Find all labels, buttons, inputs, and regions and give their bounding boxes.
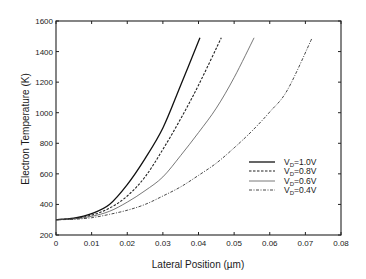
legend: VD=1.0VVD=0.8VVD=0.6VVD=0.4V xyxy=(249,157,317,196)
y-tick-label: 1600 xyxy=(35,17,53,26)
plot-frame xyxy=(56,21,341,235)
y-tick-label: 600 xyxy=(40,170,54,179)
y-tick-label: 400 xyxy=(40,200,54,209)
y-axis-ticks: 2004006008001000120014001600 xyxy=(35,17,341,240)
y-tick-label: 200 xyxy=(40,231,54,240)
x-axis-title: Lateral Position (µm) xyxy=(152,259,244,270)
x-tick-label: 0 xyxy=(54,239,59,248)
x-tick-label: 0.07 xyxy=(298,239,314,248)
y-tick-label: 800 xyxy=(40,139,54,148)
electron-temperature-chart: 00.010.020.030.040.050.060.070.08 200400… xyxy=(0,0,366,279)
x-tick-label: 0.04 xyxy=(191,239,207,248)
y-tick-label: 1400 xyxy=(35,48,53,57)
x-tick-label: 0.03 xyxy=(155,239,171,248)
x-tick-label: 0.01 xyxy=(84,239,100,248)
x-axis-ticks: 00.010.020.030.040.050.060.070.08 xyxy=(54,21,350,248)
plot-border xyxy=(56,21,341,235)
x-tick-label: 0.05 xyxy=(226,239,242,248)
y-axis-title: Electron Temperature (K) xyxy=(20,73,31,185)
x-tick-label: 0.08 xyxy=(333,239,349,248)
series-layer xyxy=(56,38,312,220)
legend-label-value: =0.8V xyxy=(294,166,317,176)
series-line-solid xyxy=(56,38,200,220)
series-line-dashdot xyxy=(56,38,312,220)
series-line-dotted xyxy=(56,38,254,220)
y-tick-label: 1200 xyxy=(35,78,53,87)
x-tick-label: 0.06 xyxy=(262,239,278,248)
x-tick-label: 0.02 xyxy=(119,239,135,248)
legend-label-value: =0.4V xyxy=(294,185,317,195)
series-line-dashed xyxy=(56,38,221,220)
y-tick-label: 1000 xyxy=(35,109,53,118)
legend-label: VD=0.4V xyxy=(284,185,317,196)
